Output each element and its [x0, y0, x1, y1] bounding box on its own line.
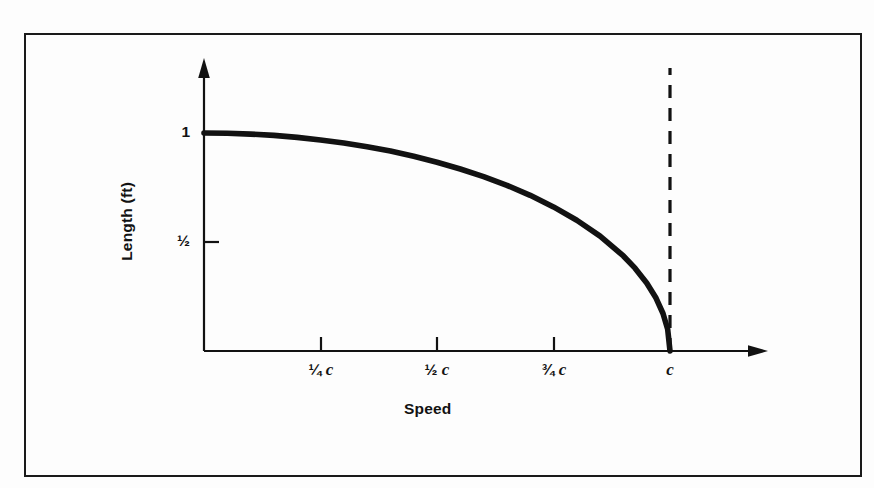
x-axis-title: Speed [404, 400, 452, 418]
x-tick-symbol: c [559, 360, 567, 379]
x-axis [204, 345, 768, 357]
x-tick-marks [321, 337, 554, 351]
y-axis-arrow-icon [198, 58, 210, 78]
x-tick-fraction: ½ [425, 361, 438, 378]
x-tick-label-three-quarter-c: ¾ c [514, 360, 594, 380]
x-tick-fraction: ¾ [542, 361, 555, 378]
y-axis-title: Length (ft) [118, 182, 136, 261]
x-tick-symbol: c [326, 360, 334, 379]
x-tick-fraction: ¼ [309, 361, 322, 378]
length-contraction-curve [204, 133, 670, 351]
x-tick-symbol: c [442, 360, 450, 379]
y-axis [198, 58, 210, 351]
y-tick-label-1: 1 [150, 123, 190, 141]
x-tick-label-half-c: ½ c [397, 360, 477, 380]
x-tick-label-c: c [630, 360, 710, 380]
y-tick-label-half: ½ [150, 232, 190, 250]
x-axis-arrow-icon [748, 345, 768, 357]
x-tick-label-quarter-c: ¼ c [281, 360, 361, 380]
x-tick-symbol: c [666, 360, 674, 379]
figure-page: Length (ft) Speed 1 ½ ¼ c ½ c ¾ c c [0, 0, 874, 488]
